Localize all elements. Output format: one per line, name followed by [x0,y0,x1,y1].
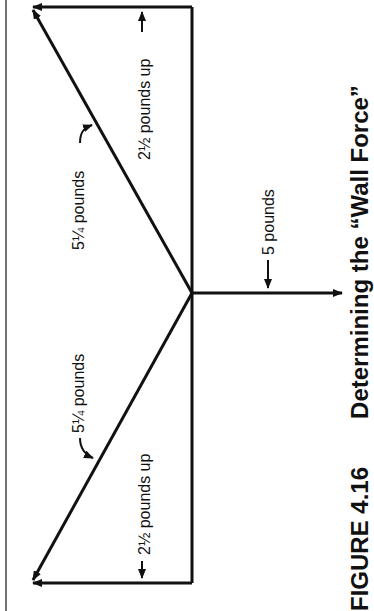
top-diagonal-arrow [33,10,192,293]
wall-force-diagram: 2½ pounds up 5¼ pounds 5 pounds 5¼ pound… [0,0,374,611]
bottom-diagonal-arrow [33,293,192,580]
label-top-diagonal: 5¼ pounds [70,171,87,250]
figure-caption: FIGURE 4.16Determining the “Wall Force” [346,85,373,611]
label-center-load: 5 pounds [260,189,277,255]
label-bottom-diagonal: 5¼ pounds [70,354,87,433]
label-top-vertical: 2½ pounds up [136,58,153,160]
top-diagonal-pointer-icon [80,125,92,143]
label-bottom-vertical: 2½ pounds up [136,453,153,555]
caption-title: Determining the “Wall Force” [346,85,373,419]
caption-number: FIGURE 4.16 [346,467,373,611]
bottom-diagonal-pointer-icon [80,438,93,458]
